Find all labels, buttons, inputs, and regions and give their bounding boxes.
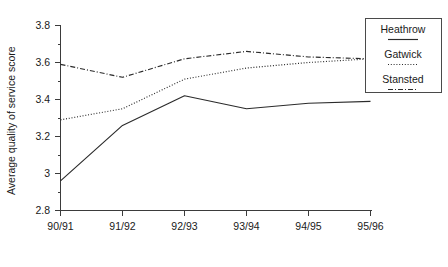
legend-label-gatwick: Gatwick <box>384 48 422 60</box>
y-tick-label-3: 3 <box>44 167 50 179</box>
x-tick-label-92-93: 92/93 <box>171 220 197 232</box>
x-tick-label-90-91: 90/91 <box>47 220 73 232</box>
y-tick-label-3.4: 3.4 <box>35 93 50 105</box>
y-tick-label-3.2: 3.2 <box>35 130 50 142</box>
chart-figure: 3.8 3.6 3.4 3.2 3 2.8 90/91 91/92 92/93 … <box>0 0 448 267</box>
x-tick-label-91-92: 91/92 <box>109 220 135 232</box>
x-tick-label-94-95: 94/95 <box>295 220 321 232</box>
x-tick-label-95-96: 95/96 <box>357 220 383 232</box>
y-tick-label-3.6: 3.6 <box>35 56 50 68</box>
series-line-gatwick <box>61 59 371 120</box>
y-tick-label-3.8: 3.8 <box>35 19 50 31</box>
legend: Heathrow Gatwick Stansted <box>366 19 442 93</box>
series-line-heathrow <box>61 96 371 181</box>
y-tick-label-2.8: 2.8 <box>35 204 50 216</box>
x-axis-ticks <box>61 211 371 217</box>
line-chart: 3.8 3.6 3.4 3.2 3 2.8 90/91 91/92 92/93 … <box>0 0 448 267</box>
legend-label-stansted: Stansted <box>382 73 424 85</box>
y-axis-title: Average quality of service score <box>5 46 17 195</box>
legend-label-heathrow: Heathrow <box>381 23 426 35</box>
x-tick-label-93-94: 93/94 <box>233 220 259 232</box>
